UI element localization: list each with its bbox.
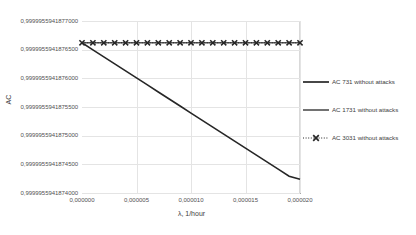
legend-item-label: AC 1731 without attacks [332,106,398,114]
y-tick-label: 0,9999955941875500 [14,104,78,111]
y-tick-label: 0,9999955941874500 [14,161,78,168]
legend-item-1[interactable]: AC 731 without attacks [303,76,416,88]
x-tick-label: 0,000015 [216,196,276,204]
x-axis-tick-labels: 0,0000000,0000050,0000100,0000150,000020 [0,196,416,210]
series-1 [82,43,300,179]
legend-item-label: AC 3031 without attacks [332,134,398,142]
legend-item-label: AC 731 without attacks [332,78,395,86]
legend-swatch-icon [303,105,329,115]
y-tick-label: 0,9999955941876000 [14,75,78,82]
x-axis-title: λ, 1/hour [82,210,301,217]
chart-container: AC 0,99999559418770000,99999559418765000… [0,0,416,235]
x-tick-label: 0,000000 [52,196,112,204]
plot-area [82,21,300,193]
y-axis-title: AC [5,80,12,120]
legend-swatch-icon [303,133,329,143]
x-tick-label: 0,000005 [107,196,167,204]
y-tick-label: 0,9999955941877000 [14,18,78,25]
series-line [82,43,300,179]
gridline-horizontal [82,193,300,194]
gridline-vertical [300,21,301,193]
y-tick-label: 0,9999955941876500 [14,46,78,53]
x-tick-label: 0,000010 [161,196,221,204]
chart-legend: AC 731 without attacksAC 1731 without at… [303,76,416,146]
y-tick-label: 0,9999955941875000 [14,132,78,139]
legend-swatch-icon [303,77,329,87]
legend-item-3[interactable]: AC 3031 without attacks [303,132,416,144]
legend-item-2[interactable]: AC 1731 without attacks [303,104,416,116]
data-series-layer [82,21,300,193]
x-tick-label: 0,000020 [270,196,330,204]
